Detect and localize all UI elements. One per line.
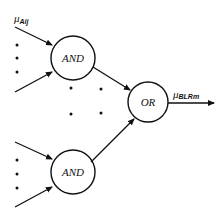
input-membership-label: μAij [13,12,30,26]
input-wire-bottom-2 [15,187,52,207]
ellipsis-dot [16,71,19,74]
input-wire-bottom-1 [15,142,52,159]
ellipsis-dot [100,112,103,115]
wire-and-bottom-to-or [91,119,134,162]
ellipsis-dot [16,159,19,162]
ellipsis-dot [16,44,19,47]
and-gate-bottom: AND [51,150,95,194]
and-gate-top-label: AND [61,52,84,64]
and-gate-bottom-label: AND [61,166,84,178]
output-membership-label: μBLRm [172,88,199,100]
fuzzy-rule-diagram: μAij AND AND OR μBLRm [0,0,221,217]
ellipsis-dot [16,173,19,176]
or-gate-label: OR [141,96,156,108]
wire-and-top-to-or [93,67,130,90]
and-gate-top: AND [51,36,95,80]
ellipsis-dot [70,113,73,116]
or-gate: OR [128,82,168,122]
ellipsis-dot [16,57,19,60]
ellipsis-dot [70,87,73,90]
ellipsis-dot [16,187,19,190]
input-wire-top-1 [15,27,52,45]
ellipsis-dot [100,88,103,91]
input-wire-top-2 [15,72,52,92]
